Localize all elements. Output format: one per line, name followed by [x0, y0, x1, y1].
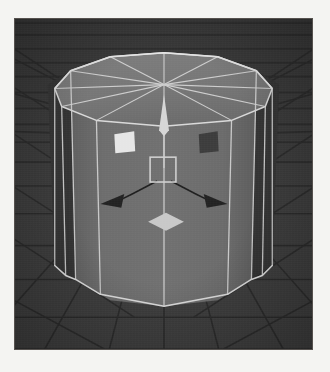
cylinder[interactable] [48, 53, 279, 306]
perspective-viewport[interactable] [14, 18, 313, 350]
app-root [0, 0, 330, 372]
viewport-canvas[interactable] [15, 19, 312, 349]
left-square-handle[interactable] [114, 131, 135, 153]
right-square-handle[interactable] [199, 131, 219, 153]
